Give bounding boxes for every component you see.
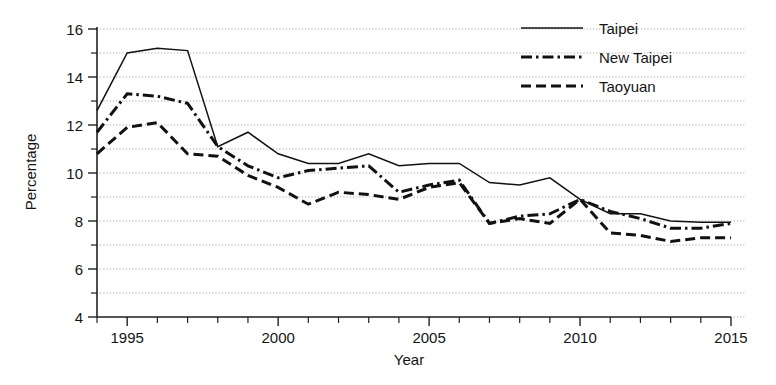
y-tick-label: 16 bbox=[66, 21, 83, 38]
x-tick-label: 2005 bbox=[412, 329, 445, 346]
legend-label-text: New Taipei bbox=[599, 49, 672, 66]
y-axis-title: Percentage bbox=[22, 134, 39, 211]
series-line-new-taipei bbox=[97, 94, 731, 228]
legend-item-taipei: Taipei bbox=[521, 20, 638, 37]
chart-legend: TaipeiNew TaipeiTaoyuan bbox=[521, 20, 672, 95]
x-tick-label: 1995 bbox=[111, 329, 144, 346]
line-chart-svg: 46810121416 19952000200520102015 Year Pe… bbox=[0, 0, 776, 385]
chart-figure: 46810121416 19952000200520102015 Year Pe… bbox=[0, 0, 776, 385]
y-tick-label: 8 bbox=[75, 213, 83, 230]
x-tick-label: 2015 bbox=[714, 329, 747, 346]
legend-item-new-taipei: New Taipei bbox=[521, 49, 672, 66]
x-tick-label: 2010 bbox=[563, 329, 596, 346]
series-line-taoyuan bbox=[97, 123, 731, 242]
y-tick-label: 12 bbox=[66, 117, 83, 134]
legend-label-text: Taipei bbox=[599, 20, 638, 37]
x-axis-title: Year bbox=[394, 351, 424, 368]
x-axis-ticks bbox=[97, 317, 731, 326]
legend-label-text: Taoyuan bbox=[599, 78, 656, 95]
series-line-taipei bbox=[97, 48, 731, 222]
y-axis-tick-labels: 46810121416 bbox=[66, 21, 83, 326]
y-tick-label: 14 bbox=[66, 69, 83, 86]
plot-axes bbox=[97, 27, 731, 317]
x-tick-label: 2000 bbox=[261, 329, 294, 346]
y-tick-label: 10 bbox=[66, 165, 83, 182]
legend-item-taoyuan: Taoyuan bbox=[521, 78, 656, 95]
y-tick-label: 6 bbox=[75, 261, 83, 278]
x-axis-tick-labels: 19952000200520102015 bbox=[111, 329, 748, 346]
y-axis-ticks bbox=[88, 29, 97, 317]
y-tick-label: 4 bbox=[75, 309, 83, 326]
